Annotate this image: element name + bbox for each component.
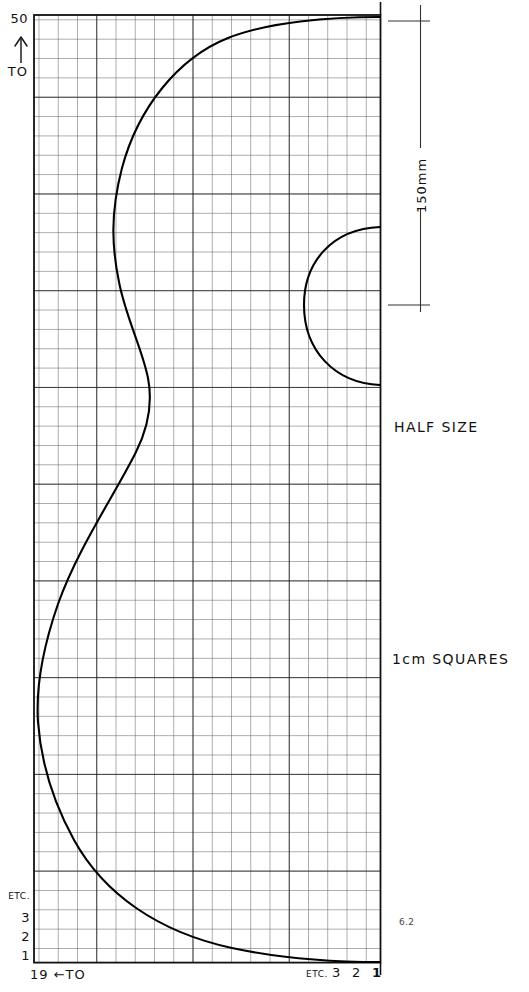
dimension-label-150mm: 150mm [414, 156, 429, 216]
y-axis-label-1: 1 [0, 948, 30, 963]
y-axis-label-etc: ETC. [0, 891, 30, 901]
x-axis-label-1: 1 [372, 965, 382, 980]
x-axis-label-3: 3 [332, 965, 341, 980]
note-grid-squares: 1cm SQUARES [392, 651, 509, 667]
technical-drawing-canvas [0, 0, 529, 992]
figure-number: 6.2 [399, 917, 414, 927]
y-axis-top-value: 50 [4, 11, 28, 26]
up-arrow-icon [10, 34, 32, 64]
x-axis-label-etc: ETC. [306, 969, 328, 979]
grid-major-lines [34, 15, 381, 963]
y-axis-label-2: 2 [0, 929, 30, 944]
x-axis-label-2: 2 [352, 965, 361, 980]
drawing-page: 50 TO ETC. 3 2 1 19 ←TO ETC. 3 2 1 150mm… [0, 0, 529, 992]
x-axis-left-label: 19 ←TO [30, 967, 86, 982]
note-half-size: HALF SIZE [394, 419, 478, 435]
grid-area [34, 15, 381, 963]
y-axis-to-label: TO [2, 64, 28, 79]
y-axis-label-3: 3 [0, 910, 30, 925]
